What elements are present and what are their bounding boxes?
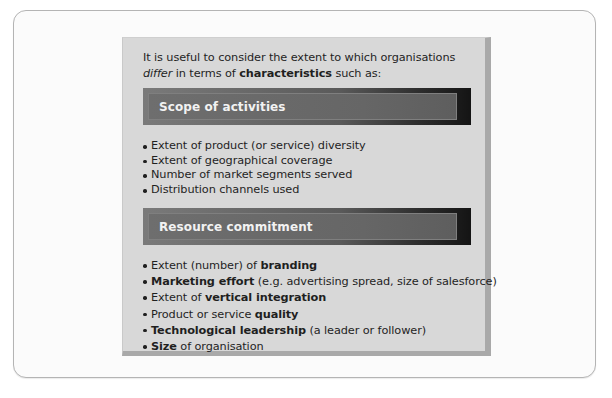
scope-list: Extent of product (or service) diversity…: [143, 139, 366, 198]
list-item: Extent (number) of branding: [143, 258, 497, 274]
section-header-scope: Scope of activities: [143, 88, 471, 125]
section-header-label: Scope of activities: [159, 100, 286, 114]
section-header-resource: Resource commitment: [143, 208, 471, 245]
intro-part1: It is useful to consider the extent to w…: [143, 51, 455, 64]
list-item: Number of market segments served: [143, 168, 366, 183]
list-item: Product or service quality: [143, 307, 497, 323]
list-item: Extent of geographical coverage: [143, 154, 366, 169]
intro-part2: in terms of: [172, 67, 239, 80]
list-item: Technological leadership (a leader or fo…: [143, 323, 497, 339]
intro-part3: such as:: [332, 67, 381, 80]
resource-list: Extent (number) of branding Marketing ef…: [143, 258, 497, 355]
section-header-inner: Resource commitment: [148, 213, 457, 240]
intro-bold: characteristics: [239, 67, 332, 80]
section-header-inner: Scope of activities: [148, 93, 457, 120]
section-header-label: Resource commitment: [159, 220, 313, 234]
list-item: Extent of product (or service) diversity: [143, 139, 366, 154]
list-item: Extent of vertical integration: [143, 290, 497, 306]
characteristics-panel: It is useful to consider the extent to w…: [122, 37, 491, 356]
intro-italic: differ: [143, 67, 172, 80]
list-item: Distribution channels used: [143, 183, 366, 198]
intro-text: It is useful to consider the extent to w…: [143, 50, 473, 81]
list-item: Size of organisation: [143, 339, 497, 355]
list-item: Marketing effort (e.g. advertising sprea…: [143, 274, 497, 290]
